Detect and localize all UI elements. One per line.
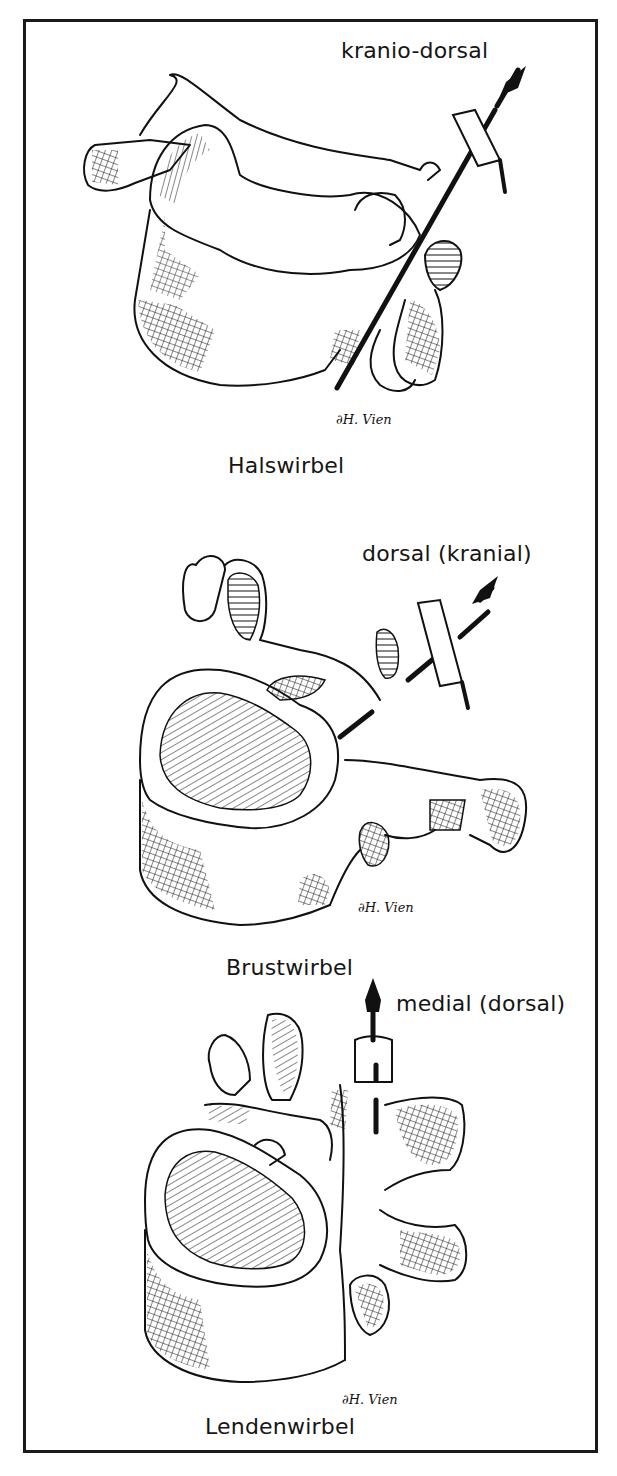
vertebrae-illustration [0, 0, 617, 1476]
panel-title-cervical: Halswirbel [228, 455, 344, 477]
artist-signature-thoracic: ∂H. Vien [358, 900, 414, 915]
direction-label-thoracic: dorsal (kranial) [362, 543, 532, 565]
artist-signature-cervical: ∂H. Vien [336, 412, 392, 427]
panel-title-lumbar: Lendenwirbel [205, 1416, 355, 1438]
direction-label-cervical: kranio-dorsal [341, 40, 488, 62]
direction-label-lumbar: medial (dorsal) [396, 993, 565, 1015]
thoracic-vertebra-drawing [140, 556, 526, 925]
panel-title-thoracic: Brustwirbel [226, 957, 353, 979]
cervical-vertebra-drawing [84, 66, 526, 391]
artist-signature-lumbar: ∂H. Vien [342, 1392, 398, 1407]
lumbar-vertebra-drawing [145, 978, 466, 1382]
